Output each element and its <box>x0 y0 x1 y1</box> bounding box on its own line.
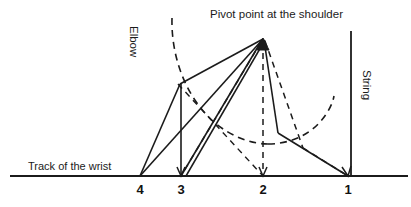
arm-line-position-4 <box>140 39 263 176</box>
elbow-cross-dashed <box>178 84 263 176</box>
position-label-3: 3 <box>177 182 184 197</box>
wrist-track-label: Track of the wrist <box>28 161 111 172</box>
arm-linkage-diagram: Pivot point at the shoulder Track of the… <box>0 0 411 207</box>
diagram-canvas <box>0 0 411 207</box>
position-label-2: 2 <box>259 182 266 197</box>
position-label-4: 4 <box>136 182 143 197</box>
arrowhead-position-1 <box>342 166 351 176</box>
string-label: String <box>361 70 373 100</box>
elbow-label: Elbow <box>128 26 140 57</box>
forearm-segment-position-4 <box>140 84 180 176</box>
page-title: Pivot point at the shoulder <box>210 9 343 21</box>
upper-arm-segment-position-3 <box>180 39 263 84</box>
upper-arm-dashed-position-2 <box>265 41 303 148</box>
arm-line-position-3-to-pivot-b <box>186 40 265 176</box>
upper-arm-segment-position-1 <box>264 40 278 133</box>
position-label-1: 1 <box>344 182 351 197</box>
elbow-track-curve-right <box>268 96 334 144</box>
